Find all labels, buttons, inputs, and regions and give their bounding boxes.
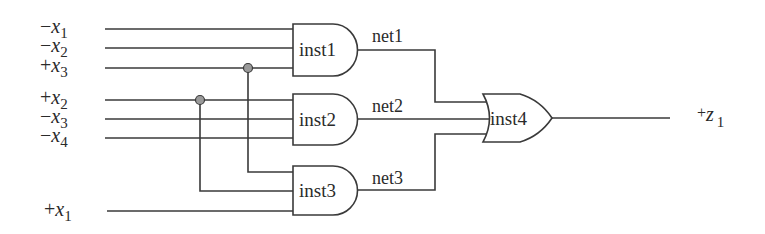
junction-dot-x3 <box>244 64 253 73</box>
branch-x2-to-inst3 <box>200 100 293 191</box>
svg-text:+z1: +z1 <box>697 103 724 130</box>
logic-circuit-diagram: −x1 −x2 +x3 +x2 −x3 −x4 +x1 inst1 inst2 … <box>0 0 765 234</box>
net1-wire <box>357 50 487 102</box>
output-label-z1: +z1 <box>697 103 724 130</box>
gate-label-inst2: inst2 <box>299 109 336 130</box>
net-label-net1: net1 <box>372 26 403 46</box>
junction-dot-x2 <box>196 96 205 105</box>
input-label-pos-x1: +x1 <box>44 198 72 224</box>
net-label-net3: net3 <box>372 168 403 188</box>
net-label-net2: net2 <box>372 96 403 116</box>
branch-x3-to-inst3 <box>248 68 293 172</box>
gate-label-inst3: inst3 <box>299 180 336 201</box>
gate-label-inst1: inst1 <box>299 39 336 60</box>
svg-text:+x1: +x1 <box>44 198 72 224</box>
gate-label-inst4: inst4 <box>490 108 527 129</box>
